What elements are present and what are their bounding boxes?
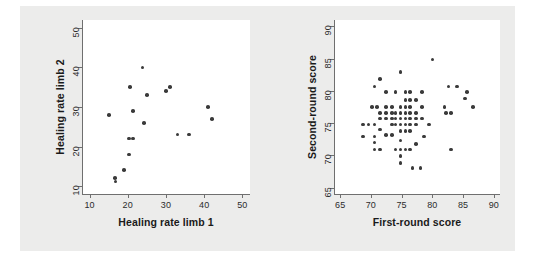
scatter-point	[384, 133, 388, 137]
scatter-point	[131, 109, 135, 113]
scatter-point	[378, 77, 382, 81]
scatter-point	[404, 90, 408, 94]
scatter-point	[399, 129, 403, 133]
scatter-point	[107, 113, 111, 117]
scatter-point	[408, 90, 412, 94]
scatter-point	[455, 85, 459, 89]
x-axis-tick	[432, 194, 433, 198]
scatter-point	[145, 93, 149, 97]
x-axis-tick-label: 30	[154, 200, 178, 210]
scatter-point	[420, 117, 424, 121]
y-axis-title-right: Second-round score	[306, 20, 318, 194]
scatter-point	[164, 89, 168, 93]
x-axis-tick-label: 65	[328, 200, 352, 210]
x-axis-tick-label: 80	[420, 200, 444, 210]
x-axis-tick	[463, 194, 464, 198]
scatter-point	[384, 111, 388, 115]
scatter-point	[390, 133, 394, 137]
scatter-point	[378, 111, 382, 115]
scatter-point	[128, 85, 132, 89]
scatter-point	[399, 161, 403, 165]
scatter-point	[399, 70, 403, 74]
scatter-point	[168, 85, 172, 89]
scatter-point	[127, 153, 131, 157]
scatter-point	[414, 117, 418, 121]
x-axis-tick	[340, 194, 341, 198]
x-axis-tick	[90, 194, 91, 198]
scatter-point	[422, 135, 426, 139]
y-axis-tick-label: 85	[323, 58, 333, 72]
scatter-point	[210, 117, 214, 121]
scatter-point	[444, 111, 448, 115]
scatter-point	[142, 121, 146, 125]
y-axis-tick-label: 65	[323, 187, 333, 201]
x-axis-tick-label: 85	[451, 200, 475, 210]
plot-area-right	[334, 20, 500, 194]
x-axis-tick-label: 50	[230, 200, 254, 210]
scatter-point	[471, 105, 475, 109]
x-axis-tick	[242, 194, 243, 198]
scatter-point	[465, 90, 469, 94]
scatter-point	[361, 123, 365, 127]
y-axis-tick-label: 20	[71, 146, 81, 160]
x-axis-tick	[204, 194, 205, 198]
scatter-point	[390, 105, 394, 109]
plot-area-left	[82, 20, 250, 194]
x-axis-title-left: Healing rate limb 1	[82, 216, 250, 228]
scatter-point	[414, 123, 418, 127]
x-axis-tick-label: 70	[359, 200, 383, 210]
x-axis-tick	[371, 194, 372, 198]
x-axis-tick-label: 10	[78, 200, 102, 210]
y-axis-tick-label: 50	[71, 27, 81, 41]
scatter-point	[375, 105, 379, 109]
scatter-point	[449, 148, 453, 152]
y-axis-tick-label: 40	[71, 66, 81, 80]
y-axis-tick-label: 30	[71, 106, 81, 120]
scatter-point	[414, 98, 418, 102]
scatter-point	[131, 137, 135, 141]
scatter-panel-healing-rate: 10203040501020304050 Healing rate limb 2…	[20, 6, 268, 251]
x-axis-tick	[128, 194, 129, 198]
x-axis-line	[334, 194, 500, 195]
x-axis-tick-label: 75	[390, 200, 414, 210]
scatter-point	[399, 105, 403, 109]
scatter-point	[449, 111, 453, 115]
scatter-point	[370, 105, 374, 109]
scatter-point	[420, 105, 424, 109]
scatter-point	[206, 105, 210, 109]
scatter-point	[404, 105, 408, 109]
scatter-point	[404, 111, 408, 115]
scatter-point	[414, 111, 418, 115]
scatter-point	[408, 98, 412, 102]
scatter-point	[420, 90, 424, 94]
scatter-point	[404, 129, 408, 133]
x-axis-tick	[166, 194, 167, 198]
figure-container: 10203040501020304050 Healing rate limb 2…	[20, 6, 515, 251]
x-axis-tick	[402, 194, 403, 198]
scatter-point	[414, 142, 418, 146]
scatter-point	[404, 98, 408, 102]
y-axis-line	[82, 20, 83, 194]
y-axis-title-left: Healing rate limb 2	[54, 20, 66, 194]
x-axis-tick-label: 90	[482, 200, 506, 210]
x-axis-tick-label: 20	[116, 200, 140, 210]
scatter-point	[408, 129, 412, 133]
x-axis-tick	[494, 194, 495, 198]
y-axis-tick-label: 90	[323, 25, 333, 39]
y-axis-line	[334, 20, 335, 194]
x-axis-title-right: First-round score	[334, 216, 500, 228]
y-axis-tick-label: 75	[323, 122, 333, 136]
y-axis-tick-label: 70	[323, 154, 333, 168]
scatter-point	[399, 111, 403, 115]
y-axis-tick-label: 10	[71, 185, 81, 199]
scatter-point	[384, 90, 388, 94]
scatter-point	[399, 154, 403, 158]
scatter-point	[384, 105, 388, 109]
scatter-panel-round-scores: 657075808590657075808590 Second-round sc…	[268, 6, 515, 251]
y-axis-tick-label: 80	[323, 90, 333, 104]
scatter-point	[394, 111, 398, 115]
scatter-point	[122, 168, 126, 172]
scatter-point	[408, 105, 412, 109]
x-axis-tick-label: 40	[192, 200, 216, 210]
scatter-point	[408, 111, 412, 115]
